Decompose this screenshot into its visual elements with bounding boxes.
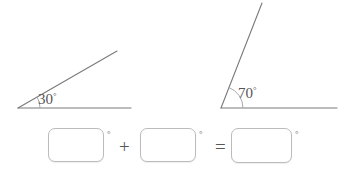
operator-equals: =: [215, 137, 226, 156]
angle-2-measure-label: 70°: [238, 86, 257, 101]
angle-figure-1: [18, 51, 131, 108]
angle-1-measure-label: 30°: [38, 92, 57, 107]
answer-2-degree-symbol: °: [199, 130, 203, 139]
angle-1-ray: [18, 51, 117, 108]
answer-1-degree-symbol: °: [107, 130, 111, 139]
answer-box-2[interactable]: [140, 128, 196, 162]
answer-box-3[interactable]: [231, 128, 292, 163]
answer-box-1[interactable]: [48, 128, 104, 162]
angle-2-value: 70: [238, 85, 253, 101]
angle-2-degree-symbol: °: [253, 85, 257, 95]
answer-3-degree-symbol: °: [295, 130, 299, 139]
equation-row: ° + ° = °: [0, 124, 347, 169]
worksheet-canvas: 30° 70° ° + ° = °: [0, 0, 347, 171]
angle-1-value: 30: [38, 91, 53, 107]
angle-1-degree-symbol: °: [53, 91, 57, 101]
operator-plus: +: [119, 137, 130, 156]
